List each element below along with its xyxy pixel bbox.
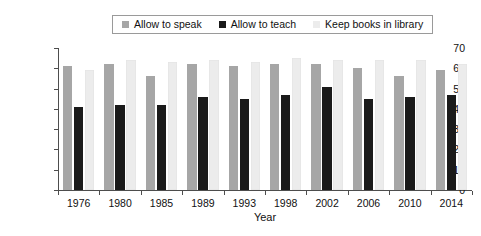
bar-group xyxy=(311,48,343,190)
x-tick-label: 1985 xyxy=(150,197,173,209)
x-tick-mark xyxy=(472,191,473,195)
bar xyxy=(364,99,374,190)
y-tick-mark xyxy=(54,48,58,49)
bar xyxy=(292,58,302,190)
y-tick-mark xyxy=(54,129,58,130)
bar xyxy=(436,70,446,190)
x-tick-label: 1989 xyxy=(191,197,214,209)
bar-group xyxy=(436,48,468,190)
bar xyxy=(311,64,321,190)
y-tick-mark xyxy=(54,89,58,90)
bar-group xyxy=(104,48,136,190)
bar xyxy=(157,105,167,190)
bar xyxy=(74,107,84,190)
x-tick-label: 2002 xyxy=(315,197,338,209)
bar xyxy=(168,62,178,190)
bar xyxy=(270,64,280,190)
bar xyxy=(115,105,125,190)
bar xyxy=(447,95,457,190)
x-tick-label: 2014 xyxy=(440,197,463,209)
chart-figure: Allow to speak Allow to teach Keep books… xyxy=(0,0,481,236)
y-tick-mark xyxy=(54,68,58,69)
bar xyxy=(187,64,197,190)
bar xyxy=(353,68,363,190)
bar xyxy=(416,60,426,190)
x-tick-label: 1976 xyxy=(67,197,90,209)
x-tick-label: 2006 xyxy=(357,197,380,209)
y-tick-mark xyxy=(54,149,58,150)
x-tick-label: 1998 xyxy=(274,197,297,209)
plot-area: 010203040506070 197619801985198919931998… xyxy=(58,48,472,190)
y-tick-mark xyxy=(54,170,58,171)
x-tick-label: 1980 xyxy=(108,197,131,209)
x-tick-mark xyxy=(265,191,266,195)
legend-label-allow-to-speak: Allow to speak xyxy=(134,19,202,30)
bar xyxy=(146,76,156,190)
x-axis-title: Year xyxy=(58,211,472,223)
x-tick-mark xyxy=(348,191,349,195)
bar xyxy=(394,76,404,190)
bar xyxy=(240,99,250,190)
legend-entry-allow-to-teach: Allow to teach xyxy=(219,19,296,30)
y-tick-mark xyxy=(54,109,58,110)
bar xyxy=(63,66,73,190)
legend-label-allow-to-teach: Allow to teach xyxy=(231,19,296,30)
bar xyxy=(209,60,219,190)
bar xyxy=(198,97,208,190)
x-tick-mark xyxy=(58,191,59,195)
bar xyxy=(85,70,95,190)
bar-group xyxy=(394,48,426,190)
legend-swatch-allow-to-speak xyxy=(122,21,129,28)
x-tick-mark xyxy=(306,191,307,195)
legend-entry-allow-to-speak: Allow to speak xyxy=(122,19,202,30)
legend-swatch-keep-books-in-library xyxy=(313,21,320,28)
x-tick-mark xyxy=(431,191,432,195)
bar-group xyxy=(353,48,385,190)
x-tick-mark xyxy=(141,191,142,195)
legend-swatch-allow-to-teach xyxy=(219,21,226,28)
bar xyxy=(104,64,114,190)
x-tick-label: 2010 xyxy=(398,197,421,209)
x-tick-mark xyxy=(99,191,100,195)
bar xyxy=(322,87,332,190)
bar-group xyxy=(270,48,302,190)
bar xyxy=(405,97,415,190)
bar-group xyxy=(63,48,95,190)
bar xyxy=(251,62,261,190)
x-tick-mark xyxy=(224,191,225,195)
x-tick-mark xyxy=(389,191,390,195)
bar xyxy=(333,60,343,190)
bar xyxy=(281,95,291,190)
bar xyxy=(458,64,468,190)
legend-label-keep-books-in-library: Keep books in library xyxy=(325,19,423,30)
x-tick-label: 1993 xyxy=(233,197,256,209)
legend-entry-keep-books-in-library: Keep books in library xyxy=(313,19,423,30)
bar-group xyxy=(229,48,261,190)
bar-group xyxy=(187,48,219,190)
bar-group xyxy=(146,48,178,190)
x-tick-mark xyxy=(182,191,183,195)
bar xyxy=(375,60,385,190)
chart-legend: Allow to speak Allow to teach Keep books… xyxy=(112,15,433,34)
bar xyxy=(126,60,136,190)
bar xyxy=(229,66,239,190)
